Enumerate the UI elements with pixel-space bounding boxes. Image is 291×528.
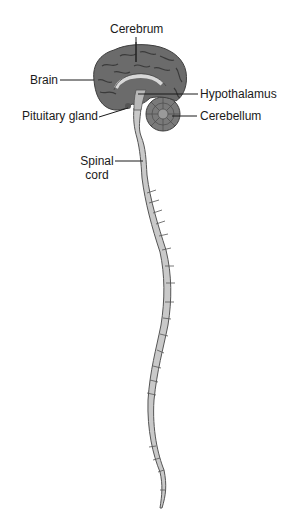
label-spinal: Spinal [80, 154, 114, 168]
label-cerebellum: Cerebellum [200, 109, 261, 123]
label-pituitary-gland: Pituitary gland [22, 109, 98, 123]
label-hypothalamus: Hypothalamus [200, 87, 277, 101]
cns-diagram: Cerebrum Brain Hypothalamus Pituitary gl… [0, 0, 291, 528]
label-cerebrum: Cerebrum [110, 22, 163, 36]
label-cord: cord [80, 168, 114, 182]
spinal-cord [134, 108, 175, 508]
label-brain: Brain [30, 73, 58, 87]
cerebrum-shape [94, 42, 187, 110]
cerebellum [146, 97, 180, 131]
